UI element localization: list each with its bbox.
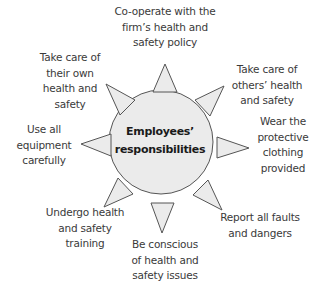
spoke-label-left: Use all equipment carefully	[8, 122, 80, 169]
spoke-triangle-top	[153, 64, 177, 92]
spoke-label-top-left: Take care of their own health and safety	[28, 50, 112, 112]
spoke-triangle-left	[81, 134, 111, 156]
spoke-label-bottom-right: Report all faults and dangers	[205, 210, 315, 241]
center-label: Employees’ responsibilities	[110, 123, 210, 159]
spoke-label-bottom-left: Undergo health and safety training	[30, 205, 140, 252]
spoke-triangle-bottom	[151, 203, 174, 233]
spoke-label-top-right: Take care of others’ health and safety	[222, 62, 312, 109]
spoke-label-top: Co-operate with the firm’s health and sa…	[100, 4, 230, 51]
spoke-triangle-bottom-right	[193, 180, 222, 210]
spoke-label-right: Wear the protective clothing provided	[248, 114, 318, 176]
spoke-triangle-right	[217, 137, 249, 158]
